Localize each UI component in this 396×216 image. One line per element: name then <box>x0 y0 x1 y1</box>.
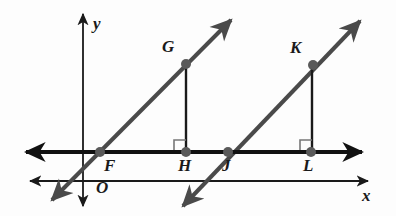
point-label-K: K <box>290 39 301 56</box>
point-label-F: F <box>104 157 115 174</box>
point-label-H: H <box>178 157 191 174</box>
origin-label: O <box>96 179 108 196</box>
point-dot-K <box>308 60 318 70</box>
geometry-canvas <box>0 0 396 216</box>
transversal-line-FG <box>52 20 231 200</box>
point-dot-G <box>181 59 191 69</box>
y-axis-label: y <box>93 15 101 32</box>
geometry-figure: F G H J K L y x O <box>0 0 396 216</box>
x-axis-label: x <box>362 187 371 204</box>
point-label-G: G <box>162 38 174 55</box>
point-label-J: J <box>222 157 231 174</box>
transversal-line-JK <box>183 21 360 206</box>
point-label-L: L <box>303 157 313 174</box>
